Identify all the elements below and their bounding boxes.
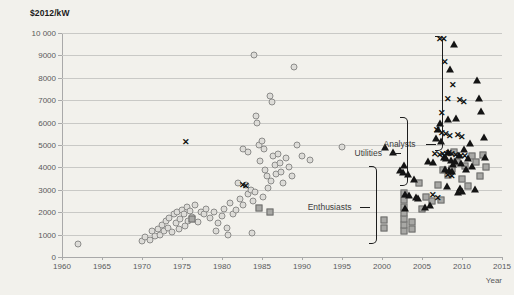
data-point-triangle xyxy=(466,139,474,146)
gridline xyxy=(62,235,502,236)
annotation-stem-enthusiasts xyxy=(360,207,370,208)
data-point-triangle xyxy=(443,183,451,190)
data-point-circle xyxy=(168,229,175,236)
data-point-circle xyxy=(191,202,198,209)
x-axis-tick-label: 1995 xyxy=(333,262,351,271)
y-axis-tick-label: 1000 xyxy=(38,230,56,239)
x-axis-tick-mark xyxy=(222,257,223,260)
data-point-circle xyxy=(289,173,296,180)
data-point-circle xyxy=(275,150,282,157)
data-point-cross: ✕ xyxy=(449,81,457,89)
data-point-triangle xyxy=(450,41,458,48)
data-point-circle xyxy=(257,157,264,164)
data-point-circle xyxy=(307,156,314,163)
y-axis-tick-mark xyxy=(58,212,62,213)
data-point-circle xyxy=(195,219,202,226)
data-point-cross: ✕ xyxy=(461,152,469,160)
data-point-triangle xyxy=(468,163,476,170)
data-point-circle xyxy=(212,228,219,235)
data-point-triangle xyxy=(475,94,483,101)
data-point-circle xyxy=(279,180,286,187)
data-point-cross: ✕ xyxy=(242,182,250,190)
data-point-square xyxy=(267,209,274,216)
data-point-triangle xyxy=(389,148,397,155)
x-axis-tick-mark xyxy=(382,257,383,260)
x-axis-tick-label: 2015 xyxy=(493,262,511,271)
data-point-circle xyxy=(225,231,232,238)
y-axis-tick-label: 2000 xyxy=(38,208,56,217)
data-point-square xyxy=(409,226,416,233)
data-point-cross: ✕ xyxy=(444,95,452,103)
y-axis-tick-mark xyxy=(58,235,62,236)
data-point-circle xyxy=(339,144,346,151)
data-point-circle xyxy=(265,184,272,191)
y-axis-tick-mark xyxy=(58,55,62,56)
x-axis-tick-mark xyxy=(422,257,423,260)
y-axis-tick-label: 8000 xyxy=(38,73,56,82)
y-axis-tick-mark xyxy=(58,190,62,191)
data-point-square xyxy=(409,219,416,226)
data-point-square xyxy=(381,224,388,231)
data-point-square xyxy=(476,173,483,180)
data-point-square xyxy=(401,228,408,235)
y-axis-tick-mark xyxy=(58,100,62,101)
x-axis-label: Year xyxy=(486,276,502,285)
data-point-circle xyxy=(211,209,218,216)
x-axis-tick-label: 2005 xyxy=(413,262,431,271)
y-axis-tick-label: 9000 xyxy=(38,51,56,60)
data-point-circle xyxy=(251,52,258,59)
y-axis-label: $2012/kW xyxy=(30,8,70,18)
gridline xyxy=(62,212,502,213)
x-axis-tick-mark xyxy=(102,257,103,260)
data-point-circle xyxy=(268,99,275,106)
x-axis-tick-mark xyxy=(182,257,183,260)
y-axis-tick-mark xyxy=(58,33,62,34)
x-axis-tick-label: 1985 xyxy=(253,262,271,271)
y-axis-tick-mark xyxy=(58,167,62,168)
data-point-triangle xyxy=(456,184,464,191)
data-point-triangle xyxy=(473,77,481,84)
y-axis-tick-label: 4000 xyxy=(38,163,56,172)
data-point-cross: ✕ xyxy=(460,98,468,106)
annotation-label-enthusiasts: Enthusiasts xyxy=(308,202,352,212)
data-point-cross: ✕ xyxy=(431,150,439,158)
annotation-bracket-analysts xyxy=(435,36,443,151)
data-point-square xyxy=(188,215,195,222)
x-axis-tick-label: 2010 xyxy=(453,262,471,271)
data-point-triangle xyxy=(401,204,409,211)
data-point-triangle xyxy=(421,203,429,210)
data-point-circle xyxy=(215,220,222,227)
data-point-cross: ✕ xyxy=(182,138,190,146)
y-axis-tick-label: 3000 xyxy=(38,185,56,194)
annotation-bracket-enthusiasts xyxy=(369,166,377,244)
x-axis-tick-mark xyxy=(62,257,63,260)
data-point-square xyxy=(435,182,442,189)
data-point-triangle xyxy=(481,154,489,161)
data-point-cross: ✕ xyxy=(434,194,442,202)
data-point-triangle xyxy=(477,108,485,115)
x-axis-tick-label: 1980 xyxy=(213,262,231,271)
data-point-triangle xyxy=(410,175,418,182)
data-point-square xyxy=(483,164,490,171)
data-point-cross: ✕ xyxy=(448,172,456,180)
data-point-circle xyxy=(244,148,251,155)
data-point-square xyxy=(255,204,262,211)
y-axis-tick-label: 10 000 xyxy=(32,29,56,38)
data-point-circle xyxy=(294,142,301,149)
annotation-label-utilities: Utilities xyxy=(355,148,382,158)
data-point-triangle xyxy=(480,134,488,141)
x-axis-tick-mark xyxy=(302,257,303,260)
data-point-circle xyxy=(227,200,234,207)
x-axis-tick-label: 1965 xyxy=(93,262,111,271)
y-axis-tick-label: 0 xyxy=(52,253,56,262)
data-point-circle xyxy=(221,205,228,212)
data-point-triangle xyxy=(471,185,479,192)
y-axis-tick-mark xyxy=(58,123,62,124)
x-axis-line xyxy=(62,257,503,258)
data-point-circle xyxy=(249,230,256,237)
data-point-square xyxy=(459,175,466,182)
y-axis-tick-label: 6000 xyxy=(38,118,56,127)
data-point-circle xyxy=(299,153,306,160)
data-point-circle xyxy=(219,212,226,219)
x-axis-tick-mark xyxy=(462,257,463,260)
